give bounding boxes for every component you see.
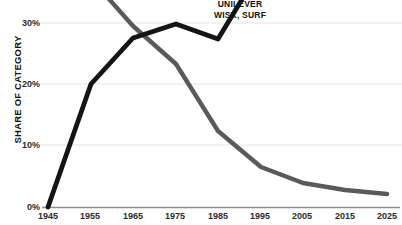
annotation-unilever-line1: UNILEVER: [218, 0, 263, 9]
plot-area: [0, 0, 402, 225]
series-line-declining: [85, 0, 387, 194]
gridlines: [40, 23, 402, 145]
series-line-unilever: [48, 0, 261, 207]
chart-container: SHARE OF CATEGORY 30% 20% 10% 0% 1945 19…: [0, 0, 402, 225]
annotation-unilever: UNILEVER WISK, SURF: [185, 0, 295, 20]
annotation-unilever-line2: WISK, SURF: [214, 10, 266, 20]
